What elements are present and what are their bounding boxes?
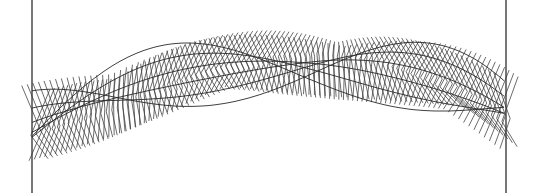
ribbon-strand bbox=[114, 73, 115, 136]
line-art-canvas bbox=[0, 0, 540, 193]
ribbon-strand bbox=[472, 60, 492, 133]
ribbon-strand bbox=[435, 45, 457, 109]
ribbon-strand bbox=[477, 63, 496, 137]
ribbon-strand-cross bbox=[401, 41, 419, 102]
twisted-ribbon bbox=[22, 31, 518, 161]
ribbon-strand-cross bbox=[190, 43, 204, 100]
ribbon-strand bbox=[494, 73, 510, 149]
ribbon-strand bbox=[103, 75, 105, 139]
ribbon-strand bbox=[109, 75, 110, 138]
ribbon-strand bbox=[334, 42, 335, 100]
ribbon-strand-cross bbox=[185, 44, 198, 101]
ribbon-strand bbox=[186, 39, 207, 102]
